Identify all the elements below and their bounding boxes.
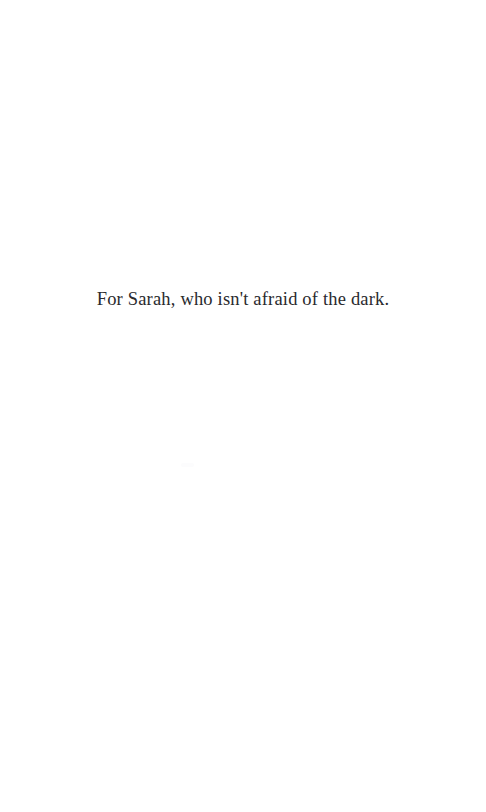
dedication-block: For Sarah, who isn't afraid of the dark. bbox=[0, 268, 486, 329]
scan-artifact bbox=[181, 463, 194, 467]
dedication-text: For Sarah, who isn't afraid of the dark. bbox=[97, 287, 390, 311]
dedication-page: For Sarah, who isn't afraid of the dark. bbox=[0, 0, 486, 812]
